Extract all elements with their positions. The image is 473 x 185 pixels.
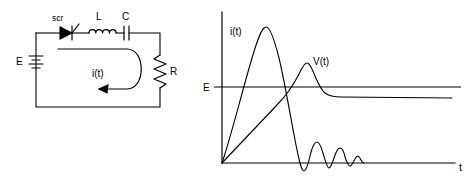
current-label: i(t) bbox=[92, 68, 104, 79]
current-loop-arrowhead bbox=[99, 85, 108, 93]
wire-capacitor-to-resistor bbox=[129, 33, 160, 55]
chart-level-label-E: E bbox=[203, 82, 210, 93]
chart-x-axis-label: t bbox=[459, 161, 462, 173]
chart-series-label-v: V(t) bbox=[313, 56, 329, 67]
capacitor-label: C bbox=[122, 11, 129, 22]
transient-response-chart: E i(t) V(t) t bbox=[203, 12, 462, 173]
scr-gate-lead bbox=[72, 24, 79, 33]
inductor-coils bbox=[89, 30, 116, 33]
curve-current-i-t bbox=[222, 27, 364, 171]
capacitor-plates-symbol bbox=[124, 26, 129, 40]
inductor-coil-symbol bbox=[89, 30, 116, 33]
scr-rlc-circuit: scr L C R bbox=[16, 11, 177, 107]
resistor-label: R bbox=[170, 66, 177, 77]
source-label: E bbox=[16, 56, 23, 67]
scr-label: scr bbox=[52, 13, 64, 23]
figure-canvas: scr L C R bbox=[0, 0, 473, 185]
resistor-zigzag-symbol bbox=[154, 55, 166, 88]
chart-series-label-i: i(t) bbox=[230, 26, 242, 37]
thyristor-scr-symbol bbox=[60, 24, 79, 40]
resistor-zigzag bbox=[154, 55, 166, 88]
inductor-label: L bbox=[96, 11, 102, 22]
curve-voltage-v-t bbox=[222, 63, 452, 163]
scr-anode-triangle bbox=[60, 27, 72, 39]
figure-root: scr L C R bbox=[0, 0, 473, 185]
